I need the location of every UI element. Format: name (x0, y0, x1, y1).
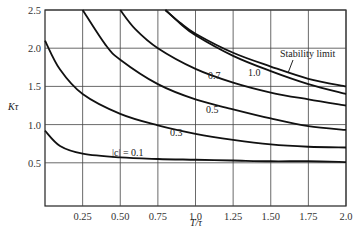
x-tick-label: 1.50 (262, 211, 280, 222)
x-tick-label: 0.50 (111, 211, 129, 222)
label-curve-0.3: 0.3 (170, 127, 183, 138)
y-tick-label: 1.0 (28, 120, 41, 131)
x-tick-label: 1.75 (299, 211, 317, 222)
y-tick-label: 1.5 (28, 81, 41, 92)
x-tick-label: 2.0 (339, 211, 352, 222)
y-tick-label: 0.5 (28, 158, 41, 169)
x-tick-label: 0.25 (73, 211, 91, 222)
tick-labels: 0.250.500.751.01.251.501.752.00.51.01.52… (28, 5, 353, 222)
stability-limit-arrow (288, 60, 293, 73)
chart: 0.250.500.751.01.251.501.752.00.51.01.52… (0, 0, 356, 234)
x-tick-label: 1.25 (224, 211, 242, 222)
y-axis-label: Kτ (7, 101, 19, 112)
y-tick-label: 2.0 (28, 43, 41, 54)
label-curve-1.0: 1.0 (248, 67, 261, 78)
label-curve-0.7: 0.7 (208, 70, 221, 81)
grid (45, 10, 346, 206)
label-curve-0.1: |c| = 0.1 (112, 147, 144, 158)
label-stability-limit: Stability limit (280, 48, 336, 59)
x-tick-label: 0.75 (149, 211, 167, 222)
y-tick-label: 2.5 (28, 5, 41, 16)
x-axis-label: T/τ (190, 217, 202, 228)
label-curve-0.5: 0.5 (206, 104, 219, 115)
